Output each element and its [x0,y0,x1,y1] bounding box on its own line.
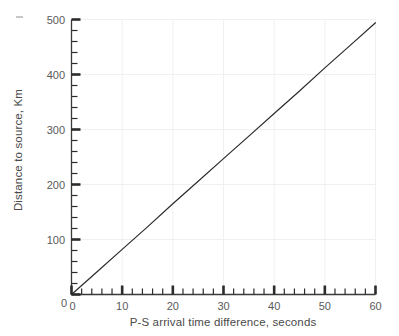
x-tick-label: 40 [268,300,280,312]
x-tick-label: 50 [319,300,331,312]
line-chart-plot [0,0,399,336]
x-tick-label: 0 [69,300,75,312]
x-tick-label: 30 [217,300,229,312]
y-tick-label: 0 [53,297,67,309]
y-tick-label: 300 [31,124,65,136]
y-tick-label: 100 [31,234,65,246]
y-tick-label: 400 [31,69,65,81]
chart-figure: Distance to source, Km P-S arrival time … [0,0,399,336]
x-tick-label: 20 [167,300,179,312]
y-tick-label: 200 [31,179,65,191]
x-axis-title: P-S arrival time difference, seconds [71,316,375,328]
gridlines-vertical [122,20,375,295]
y-axis-major-ticks [72,20,81,295]
x-tick-label: 10 [116,300,128,312]
x-tick-label: 60 [369,300,381,312]
y-tick-label: 500 [31,14,65,26]
x-axis-major-ticks [72,286,376,295]
y-axis-minor-ticks [72,31,78,284]
